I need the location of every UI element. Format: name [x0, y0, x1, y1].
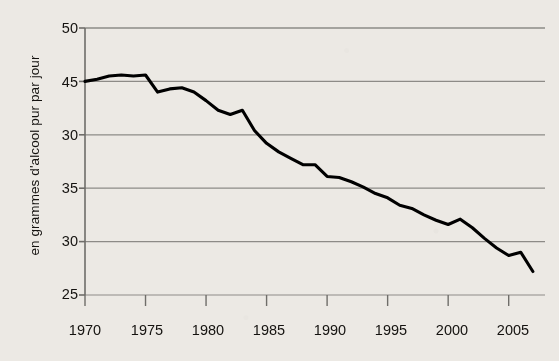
- chart-figure: en grammes d'alcool pur par jour 50 45 3…: [0, 0, 559, 361]
- x-tick-marks: [79, 28, 509, 306]
- y-gridlines: [85, 28, 545, 295]
- plot-area: [0, 0, 559, 361]
